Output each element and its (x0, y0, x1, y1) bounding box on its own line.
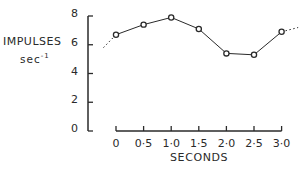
data-point-marker (196, 26, 201, 31)
data-point-marker (141, 22, 146, 27)
data-point-marker (113, 32, 118, 37)
line-chart (0, 0, 307, 174)
data-point-marker (279, 29, 284, 34)
data-point-marker (169, 15, 174, 20)
data-point-marker (224, 51, 229, 56)
data-point-marker (251, 52, 256, 57)
